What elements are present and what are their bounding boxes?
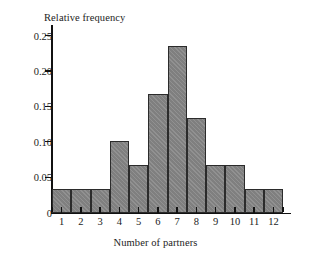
x-axis-line <box>51 213 291 215</box>
x-tick-mark <box>61 207 62 214</box>
bar-9 <box>206 165 225 212</box>
x-tick-mark <box>234 207 235 214</box>
y-tick-mark <box>45 70 52 71</box>
y-tick-mark <box>45 141 52 142</box>
bar-4 <box>110 141 129 213</box>
histogram-figure: Relative frequency 00.050.100.150.200.25… <box>0 0 311 269</box>
bar-8 <box>187 118 206 213</box>
bar-7 <box>168 46 187 212</box>
x-tick-mark-edge <box>51 207 52 212</box>
y-axis-title: Relative frequency <box>44 12 125 23</box>
x-tick-mark <box>157 207 158 214</box>
x-tick-label-12: 12 <box>258 216 288 227</box>
x-tick-mark <box>119 207 120 214</box>
x-tick-mark <box>138 207 139 214</box>
x-tick-mark <box>196 207 197 214</box>
x-tick-mark <box>215 207 216 214</box>
y-tick-label: 0 <box>8 207 52 218</box>
y-tick-mark <box>45 177 52 178</box>
bar-10 <box>225 165 244 212</box>
x-tick-mark <box>253 207 254 214</box>
x-tick-mark <box>176 207 177 214</box>
x-axis-title: Number of partners <box>0 237 311 248</box>
x-tick-mark <box>80 207 81 214</box>
x-tick-mark <box>273 207 274 214</box>
x-tick-mark <box>99 207 100 214</box>
y-axis-line <box>51 25 53 214</box>
bar-6 <box>148 94 167 212</box>
bar-5 <box>129 165 148 212</box>
y-tick-mark <box>45 106 52 107</box>
y-tick-mark <box>45 35 52 36</box>
x-tick-mark-edge <box>282 207 283 212</box>
